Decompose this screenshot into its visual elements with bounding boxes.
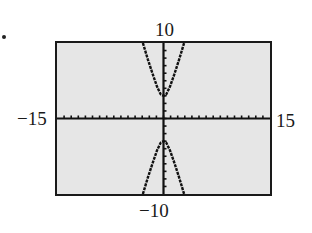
- graph-screen: [0, 0, 312, 233]
